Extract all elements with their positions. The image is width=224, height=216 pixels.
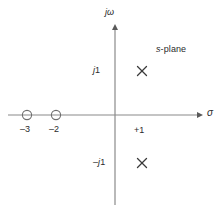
pole-marker-lower bbox=[138, 159, 147, 168]
j1-tick-label: j1 bbox=[93, 65, 100, 75]
jomega-axis-label: jω bbox=[105, 7, 114, 17]
s-plane-figure: jω s-plane j1 –j1 +1 –3 –2 σ bbox=[0, 0, 224, 216]
jomega-axis-label-text: jω bbox=[105, 7, 114, 17]
j1-tick-label-value: 1 bbox=[95, 65, 100, 75]
s-plane-label: s-plane bbox=[156, 44, 186, 54]
sigma-axis-label-text: σ bbox=[207, 107, 213, 118]
pole-zero-plot-canvas bbox=[0, 0, 224, 216]
pole-marker-upper bbox=[138, 67, 147, 76]
negative-j1-tick-label-value: 1 bbox=[100, 157, 105, 167]
sigma-axis-arrowhead bbox=[197, 112, 203, 118]
s-plane-label-suffix: -plane bbox=[161, 44, 187, 54]
plus-one-tick-label: +1 bbox=[134, 125, 144, 135]
jomega-axis-arrowhead bbox=[112, 24, 118, 30]
sigma-axis-label: σ bbox=[207, 108, 213, 118]
negative-j1-tick-label: –j1 bbox=[93, 157, 105, 167]
minus-three-tick-label: –3 bbox=[20, 124, 30, 134]
minus-two-tick-label: –2 bbox=[49, 124, 59, 134]
